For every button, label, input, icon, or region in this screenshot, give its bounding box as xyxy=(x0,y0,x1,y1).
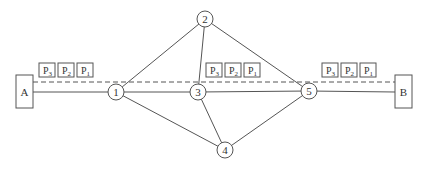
packet-P3: P3 xyxy=(39,63,55,78)
host-B: B xyxy=(395,75,412,108)
packet-P2: P2 xyxy=(225,63,241,78)
packet-P1: P1 xyxy=(360,63,376,78)
node-label: 2 xyxy=(202,13,208,25)
packet-P2: P2 xyxy=(341,63,357,78)
edge-2-3 xyxy=(198,19,205,92)
packet-groups: P3P2P1P3P2P1P3P2P1 xyxy=(39,63,376,78)
network-diagram: AB 12345 P3P2P1P3P2P1P3P2P1 xyxy=(0,0,423,171)
node-2: 2 xyxy=(197,11,213,27)
node-1: 1 xyxy=(108,84,124,100)
host-label: A xyxy=(21,86,29,98)
host-label: B xyxy=(400,86,407,98)
packet-P3: P3 xyxy=(322,63,338,78)
edge-3-5 xyxy=(198,91,309,92)
packet-group-1: P3P2P1 xyxy=(39,63,93,78)
packet-P1: P1 xyxy=(244,63,260,78)
edge-1-4 xyxy=(116,92,225,150)
node-label: 3 xyxy=(195,86,201,98)
packet-P1: P1 xyxy=(77,63,93,78)
edge-5-B xyxy=(309,91,395,92)
packet-P2: P2 xyxy=(58,63,74,78)
packet-group-2: P3P2P1 xyxy=(206,63,260,78)
node-3: 3 xyxy=(190,84,206,100)
edges xyxy=(33,19,395,150)
node-label: 5 xyxy=(306,85,312,97)
node-4: 4 xyxy=(217,142,233,158)
edge-1-2 xyxy=(116,19,205,92)
packet-P3: P3 xyxy=(206,63,222,78)
packet-group-3: P3P2P1 xyxy=(322,63,376,78)
edge-3-4 xyxy=(198,92,225,150)
router-nodes: 12345 xyxy=(108,11,317,158)
node-label: 1 xyxy=(113,86,119,98)
node-label: 4 xyxy=(222,144,228,156)
host-A: A xyxy=(16,75,33,108)
edge-4-5 xyxy=(225,91,309,150)
node-5: 5 xyxy=(301,83,317,99)
edge-2-5 xyxy=(205,19,309,91)
